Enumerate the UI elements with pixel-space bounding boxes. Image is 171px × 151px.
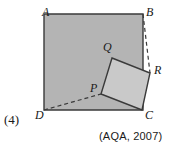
geometry-figure: A B Q R P D C (4) (AQA, 2007): [0, 0, 171, 151]
vertex-label-q: Q: [103, 41, 112, 53]
vertex-label-r: R: [154, 64, 161, 76]
vertex-label-a: A: [42, 6, 49, 18]
vertex-label-c: C: [145, 109, 153, 121]
question-marks-label: (4): [4, 113, 19, 126]
source-attribution-label: (AQA, 2007): [99, 131, 162, 142]
vertex-label-p: P: [90, 82, 97, 94]
geometry-diagram: [0, 0, 171, 151]
dashed-line-b-to-r: [143, 14, 150, 73]
vertex-label-b: B: [146, 6, 153, 18]
vertex-label-d: D: [35, 109, 44, 121]
